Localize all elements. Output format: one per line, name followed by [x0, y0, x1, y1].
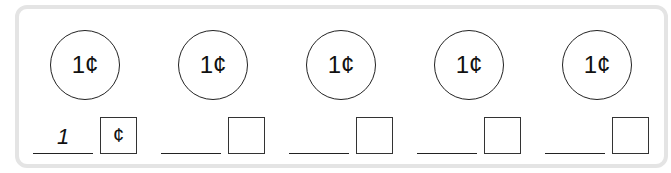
penny-coin-icon: 1¢: [434, 30, 504, 100]
penny-item: 1¢: [399, 0, 527, 173]
answer-line: [161, 153, 221, 154]
penny-coin-icon: 1¢: [562, 30, 632, 100]
answer-line: [289, 153, 349, 154]
penny-coin-icon: 1¢: [178, 30, 248, 100]
unit-box[interactable]: [484, 117, 521, 154]
answer-input[interactable]: 1: [33, 124, 93, 150]
answer-line: [33, 153, 93, 154]
answer-line: [417, 153, 477, 154]
penny-item: 1¢: [527, 0, 655, 173]
unit-box[interactable]: ¢: [100, 117, 137, 154]
answer-line: [545, 153, 605, 154]
unit-box[interactable]: [612, 117, 649, 154]
penny-item: 1¢: [143, 0, 271, 173]
penny-coin-icon: 1¢: [306, 30, 376, 100]
unit-box[interactable]: [356, 117, 393, 154]
unit-box[interactable]: [228, 117, 265, 154]
penny-item: 1¢ 1 ¢: [15, 0, 143, 173]
penny-item: 1¢: [271, 0, 399, 173]
penny-coin-icon: 1¢: [50, 30, 120, 100]
